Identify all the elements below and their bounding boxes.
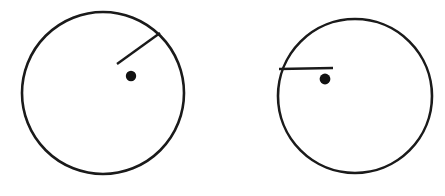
figure-container (0, 0, 445, 196)
left-circle-center-dot (126, 71, 136, 81)
right-circle-radius-line (279, 68, 333, 69)
right-circle-center-dot (320, 74, 331, 85)
two-circles-diagram (0, 0, 445, 196)
